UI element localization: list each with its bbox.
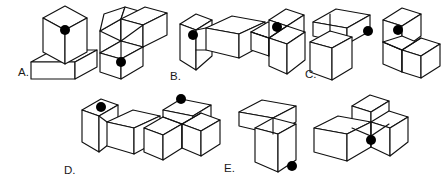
figure-c-right bbox=[383, 8, 440, 78]
figure-e-right bbox=[314, 95, 408, 161]
option-label-e: E. bbox=[224, 162, 235, 174]
figure-e-left bbox=[239, 100, 296, 172]
option-label-b: B. bbox=[170, 70, 181, 82]
option-a-group[interactable]: A. bbox=[18, 6, 167, 79]
b2-down-front bbox=[269, 38, 287, 74]
option-label-d: D. bbox=[64, 164, 76, 176]
option-d-group[interactable]: D. bbox=[64, 94, 220, 176]
marker-dot-e-right bbox=[366, 135, 376, 145]
marker-dot-a-right bbox=[116, 57, 126, 67]
marker-dot-d-left bbox=[96, 102, 106, 112]
marker-dot-e-left bbox=[287, 161, 297, 171]
marker-dot-c-right bbox=[393, 25, 403, 35]
marker-dot-b-right bbox=[272, 22, 282, 32]
puzzle-page: A. bbox=[0, 0, 446, 196]
slab-front-face bbox=[31, 62, 75, 79]
figure-a-left bbox=[31, 6, 97, 79]
d-horiz-front bbox=[107, 122, 134, 154]
marker-dot-b-left bbox=[188, 30, 198, 40]
marker-dot-a-left bbox=[60, 25, 70, 35]
option-e-group[interactable]: E. bbox=[224, 95, 408, 174]
d-upright-left bbox=[82, 110, 99, 152]
e2-left-front bbox=[314, 128, 347, 161]
e-block-front bbox=[255, 128, 278, 172]
figure-a-right bbox=[100, 7, 167, 79]
marker-dot-c-left bbox=[363, 26, 373, 36]
marker-dot-d-right bbox=[176, 94, 186, 104]
option-b-group[interactable]: B. bbox=[170, 9, 305, 82]
option-label-a: A. bbox=[18, 66, 29, 78]
option-label-c: C. bbox=[305, 68, 317, 80]
figure-d-right bbox=[144, 99, 220, 160]
option-c-group[interactable]: C. bbox=[305, 8, 440, 80]
figure-b-right bbox=[251, 9, 305, 74]
spatial-reasoning-figure: A. bbox=[0, 0, 446, 196]
figure-c-left bbox=[310, 9, 370, 80]
